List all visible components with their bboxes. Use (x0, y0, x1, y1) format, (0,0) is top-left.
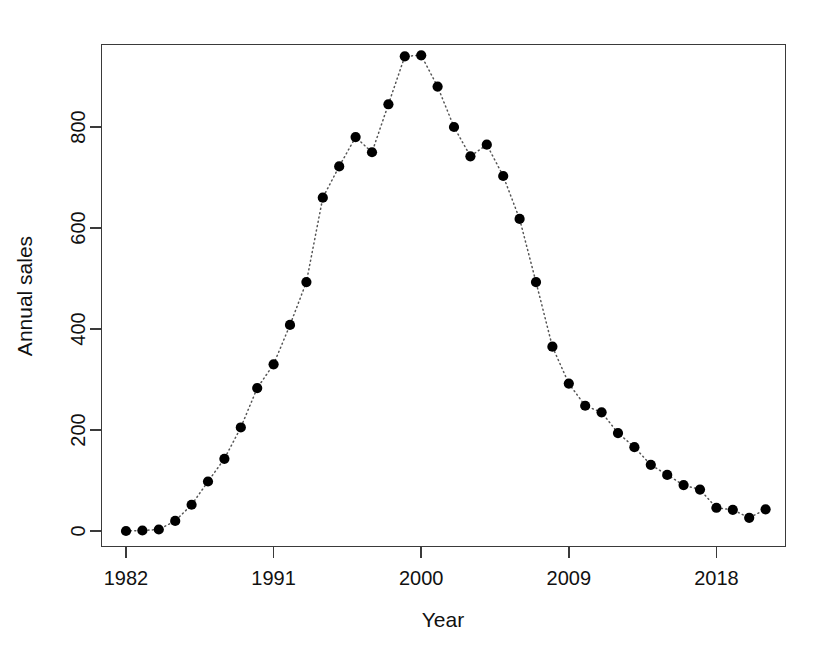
data-point (597, 407, 607, 417)
data-point (679, 480, 689, 490)
data-point (351, 132, 361, 142)
y-tick-label: 0 (67, 525, 89, 536)
x-axis-ticks: 19821991200020092018 (104, 547, 739, 590)
data-point (449, 122, 459, 132)
chart-figure: 0200400600800 19821991200020092018 Year … (0, 0, 829, 650)
data-point (154, 524, 164, 534)
data-point (547, 342, 557, 352)
data-point (662, 470, 672, 480)
y-tick-label: 400 (67, 312, 89, 345)
data-point (269, 359, 279, 369)
data-point (318, 193, 328, 203)
data-point (416, 50, 426, 60)
data-point (711, 503, 721, 513)
plot-box-frame (102, 45, 786, 547)
data-point (219, 454, 229, 464)
y-axis-ticks: 0200400600800 (67, 110, 102, 536)
x-tick-label: 2000 (399, 567, 444, 589)
data-point (187, 500, 197, 510)
data-point (400, 51, 410, 61)
data-point (236, 422, 246, 432)
data-point (121, 526, 131, 536)
data-point (613, 428, 623, 438)
data-point (564, 378, 574, 388)
data-point (137, 525, 147, 535)
data-point (170, 516, 180, 526)
data-point (203, 476, 213, 486)
data-point (515, 214, 525, 224)
data-point (695, 484, 705, 494)
data-point (334, 161, 344, 171)
x-tick-label: 1991 (251, 567, 296, 589)
y-tick-label: 200 (67, 413, 89, 446)
scatter-plot-canvas: 0200400600800 19821991200020092018 Year … (0, 0, 829, 650)
x-axis-title: Year (422, 608, 464, 631)
y-axis-title: Annual sales (13, 236, 36, 356)
x-tick-label: 2018 (694, 567, 739, 589)
data-point (252, 383, 262, 393)
y-tick-label: 800 (67, 110, 89, 143)
data-point (498, 171, 508, 181)
data-point (646, 460, 656, 470)
data-point (367, 147, 377, 157)
y-tick-label: 600 (67, 211, 89, 244)
data-point (580, 401, 590, 411)
data-point (728, 505, 738, 515)
data-point (301, 277, 311, 287)
data-point (285, 320, 295, 330)
data-point (531, 277, 541, 287)
data-point (433, 82, 443, 92)
series-data-points (121, 50, 771, 536)
data-point (744, 513, 754, 523)
x-tick-label: 2009 (547, 567, 592, 589)
x-tick-label: 1982 (104, 567, 149, 589)
data-point (465, 151, 475, 161)
data-point (482, 140, 492, 150)
data-point (629, 442, 639, 452)
data-point (761, 504, 771, 514)
data-point (383, 99, 393, 109)
